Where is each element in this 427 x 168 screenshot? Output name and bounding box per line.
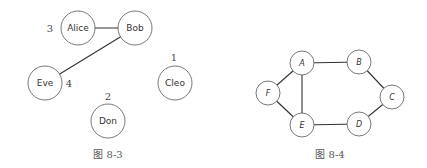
figure-8-4-caption: 图 8-4 [315, 149, 344, 160]
node-number-eve: 4 [66, 78, 72, 89]
node-label: D [356, 120, 362, 129]
node-cleo: Cleo [158, 66, 192, 100]
node-number-don: 2 [105, 91, 111, 102]
node-label: Cleo [165, 78, 185, 88]
node-label: Bob [126, 23, 144, 33]
node-label: F [266, 89, 271, 98]
figure-8-4-edges [268, 62, 392, 125]
node-e: E [290, 113, 314, 137]
figure-8-4: ABCDEF 图 8-4 [256, 50, 404, 160]
node-b: B [347, 50, 371, 74]
node-label: A [298, 59, 304, 68]
node-label: Eve [37, 78, 54, 88]
node-bob: Bob [118, 11, 152, 45]
node-c: C [380, 85, 404, 109]
node-don: Don [91, 104, 125, 138]
node-f: F [256, 81, 280, 105]
node-label: B [356, 58, 362, 67]
node-alice: Alice [61, 11, 95, 45]
node-number-cleo: 1 [171, 52, 177, 63]
node-label: Don [99, 116, 117, 126]
figure-8-3: AliceBobEveCleoDon 3142 图 8-3 [28, 11, 192, 160]
node-a: A [290, 51, 314, 75]
diagram-canvas: AliceBobEveCleoDon 3142 图 8-3 ABCDEF 图 8… [0, 0, 427, 168]
node-label: Alice [67, 23, 89, 33]
node-eve: Eve [28, 66, 62, 100]
node-label: C [389, 93, 395, 102]
node-d: D [347, 112, 371, 136]
node-number-alice: 3 [47, 23, 53, 34]
figure-8-3-caption: 图 8-3 [93, 149, 122, 160]
